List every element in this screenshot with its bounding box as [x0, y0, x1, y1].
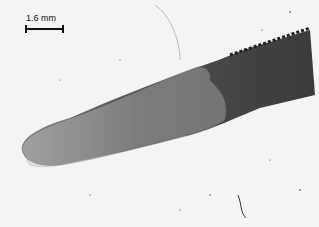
scale-bar-label: 1.6 mm	[26, 13, 56, 23]
scale-bar	[25, 28, 64, 30]
specimen-micrograph	[0, 0, 319, 227]
specimen	[22, 28, 315, 166]
